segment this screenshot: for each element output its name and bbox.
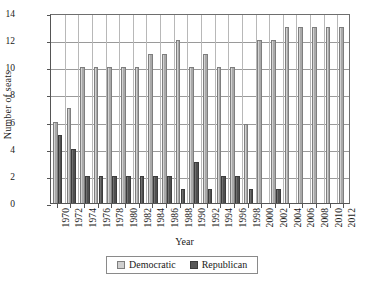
x-axis-tick-label: 2010 (334, 208, 344, 227)
x-axis-tick-label: 2008 (320, 208, 330, 227)
x-axis-tick-mark (98, 204, 99, 208)
x-axis-tick-label: 1994 (224, 208, 234, 227)
y-axis-tick-label: 6 (0, 118, 15, 128)
democratic-swatch-icon (117, 261, 125, 269)
x-axis-tick-mark (207, 204, 208, 208)
x-axis-tick-mark (70, 204, 71, 208)
x-axis-tick-label: 1976 (102, 208, 112, 227)
plot-area (50, 14, 350, 204)
y-axis-tick-label: 10 (0, 63, 15, 73)
x-axis-tick-label: 1972 (74, 208, 84, 227)
republican-swatch-icon (190, 261, 198, 269)
x-axis-tick-label: 2002 (279, 208, 289, 227)
bar-series-container (51, 15, 349, 203)
x-axis-tick-label: 1984 (156, 208, 166, 227)
bar-republican-1980 (126, 176, 131, 203)
legend-item-democratic: Democratic (117, 259, 176, 270)
x-axis-tick-mark (275, 204, 276, 208)
x-axis-tick-mark (57, 204, 58, 208)
bar-democratic-2000 (257, 40, 262, 203)
x-axis-tick-label: 2000 (265, 208, 275, 227)
x-axis-tick-label: 1970 (61, 208, 71, 227)
x-axis-tick-mark (316, 204, 317, 208)
bar-republican-1998 (249, 189, 254, 203)
bar-democratic-2002 (271, 40, 276, 203)
y-axis-tick-label: 12 (0, 36, 15, 46)
x-axis-tick-mark (180, 204, 181, 208)
y-axis-tick-label: 8 (0, 90, 15, 100)
bar-democratic-1980 (121, 67, 126, 203)
chart-legend: Democratic Republican (106, 256, 258, 274)
bar-republican-1992 (208, 189, 213, 203)
x-axis-tick-label: 2006 (306, 208, 316, 227)
bar-republican-1972 (71, 149, 76, 203)
x-axis-tick-label: 1980 (129, 208, 139, 227)
x-axis-tick-mark (139, 204, 140, 208)
x-axis-tick-mark (84, 204, 85, 208)
x-axis-tick-label: 1986 (170, 208, 180, 227)
bar-republican-1974 (85, 176, 90, 203)
bar-republican-1990 (194, 162, 199, 203)
x-axis-tick-mark (193, 204, 194, 208)
x-axis-tick-label: 2004 (293, 208, 303, 227)
bar-republican-1996 (235, 176, 240, 203)
bar-republican-2002 (276, 189, 281, 203)
bar-republican-1988 (181, 189, 186, 203)
x-axis-tick-label: 1974 (88, 208, 98, 227)
x-axis-tick-label: 1998 (252, 208, 262, 227)
bar-democratic-2008 (312, 27, 317, 203)
y-axis-tick-label: 14 (0, 9, 15, 19)
y-axis-tick-label: 0 (0, 199, 15, 209)
y-axis-title: Number of seats (2, 0, 13, 40)
x-axis-tick-mark (125, 204, 126, 208)
x-axis-tick-mark (166, 204, 167, 208)
x-axis-tick-mark (302, 204, 303, 208)
bar-republican-1984 (153, 176, 158, 203)
bar-republican-1982 (140, 176, 145, 203)
y-axis-tick-label: 2 (0, 172, 15, 182)
bar-democratic-2004 (285, 27, 290, 203)
x-axis-tick-mark (111, 204, 112, 208)
bar-democratic-1994 (217, 67, 222, 203)
x-axis-tick-label: 1988 (184, 208, 194, 227)
x-axis-tick-label: 1992 (211, 208, 221, 227)
legend-item-republican: Republican (190, 259, 248, 270)
x-axis-tick-mark (248, 204, 249, 208)
x-axis-tick-mark (261, 204, 262, 208)
y-axis-tick-mark (47, 205, 51, 206)
bar-democratic-1992 (203, 54, 208, 203)
x-axis-tick-mark (152, 204, 153, 208)
seats-by-year-bar-chart: Number of seats 02468101214 197019721974… (0, 0, 369, 291)
x-axis-tick-label: 1978 (115, 208, 125, 227)
bar-republican-1978 (112, 176, 117, 203)
x-axis-tick-mark (343, 204, 344, 208)
bar-republican-1970 (58, 135, 63, 203)
bar-democratic-1988 (176, 40, 181, 203)
bar-democratic-2010 (326, 27, 331, 203)
bar-democratic-2012 (339, 27, 344, 203)
legend-label-republican: Republican (202, 259, 248, 270)
x-axis-tick-label: 2012 (347, 208, 357, 227)
bar-democratic-2006 (298, 27, 303, 203)
x-axis-title: Year (0, 236, 369, 247)
bar-democratic-1972 (67, 108, 72, 203)
bar-republican-1994 (221, 176, 226, 203)
x-axis-tick-label: 1982 (143, 208, 153, 227)
x-axis-tick-mark (234, 204, 235, 208)
x-axis-tick-label: 1990 (197, 208, 207, 227)
bar-republican-1976 (99, 176, 104, 203)
x-axis-tick-label: 1996 (238, 208, 248, 227)
x-axis-tick-mark (289, 204, 290, 208)
x-axis-tick-mark (220, 204, 221, 208)
y-axis-tick-label: 4 (0, 145, 15, 155)
bar-republican-1986 (167, 176, 172, 203)
legend-label-democratic: Democratic (129, 259, 176, 270)
x-axis-tick-mark (330, 204, 331, 208)
